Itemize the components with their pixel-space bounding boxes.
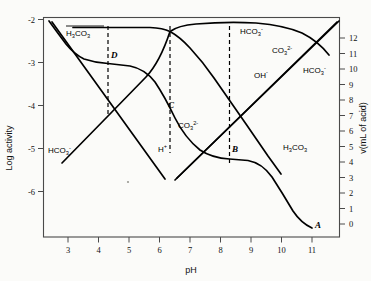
y-left-ticks [38,20,44,192]
x-tick-8: 8 [218,245,222,255]
line-oh-minus [175,22,337,180]
y-right-tick-1: 1 [349,204,353,214]
scan-speck [127,181,129,183]
y-right-tick-9: 9 [349,80,353,90]
point-label-d: D [110,50,118,60]
x-ticks [68,237,312,243]
x-tick-10: 10 [277,245,286,255]
series-label-co32-middle: CO32- [178,120,198,130]
bjerrum-plot-chart: -2 -3 -4 -5 -6 Log activity 12 11 10 9 8… [0,0,371,281]
series-label-hco3-left: HCO3- [48,145,71,155]
x-tick-5: 5 [127,245,131,255]
y-right-tick-3: 3 [349,173,353,183]
point-label-a: A [314,220,321,230]
figure-container: -2 -3 -4 -5 -6 Log activity 12 11 10 9 8… [0,0,371,281]
y-right-tick-12: 12 [349,33,358,43]
y-right-axis-title: v(mL of acid) [358,102,368,154]
y-right-tick-5: 5 [349,142,353,152]
y-left-tick-0: -2 [28,15,35,25]
series-label-hco3-top: HCO3- [240,26,263,36]
y-right-tick-7: 7 [349,111,353,121]
y-right-tick-2: 2 [349,188,353,198]
x-tick-6: 6 [157,245,161,255]
series-label-h3co3-right: H3CO3 [283,143,307,153]
y-left-tick-3: -5 [28,144,35,154]
x-tick-3: 3 [66,245,70,255]
y-left-axis-title: Log activity [4,125,14,171]
y-right-tick-4: 4 [349,157,354,167]
series-label-hco3-right: HCO3- [303,65,326,75]
y-right-tick-8: 8 [349,95,353,105]
series-label-h-plus: H+ [158,143,167,154]
x-tick-11: 11 [308,245,316,255]
x-axis-title: pH [185,265,197,275]
x-tick-7: 7 [188,245,192,255]
y-right-tick-6: 6 [349,126,353,136]
x-tick-9: 9 [249,245,253,255]
y-left-tick-1: -3 [28,58,35,68]
point-label-b: B [231,144,238,154]
y-right-tick-10: 10 [349,64,358,74]
series-label-co32-upper: CO32- [272,45,292,55]
y-right-tick-0: 0 [349,219,353,229]
series-label-oh-minus: OH- [254,69,268,80]
y-left-tick-4: -6 [28,187,35,197]
y-right-tick-11: 11 [349,49,357,59]
point-label-c: C [168,100,175,110]
y-right-ticks [340,38,346,224]
y-left-tick-2: -4 [28,101,36,111]
series-label-h3co3-top: H3CO3 [66,29,90,39]
curve-h3co3 [73,28,281,175]
x-tick-4: 4 [96,245,101,255]
